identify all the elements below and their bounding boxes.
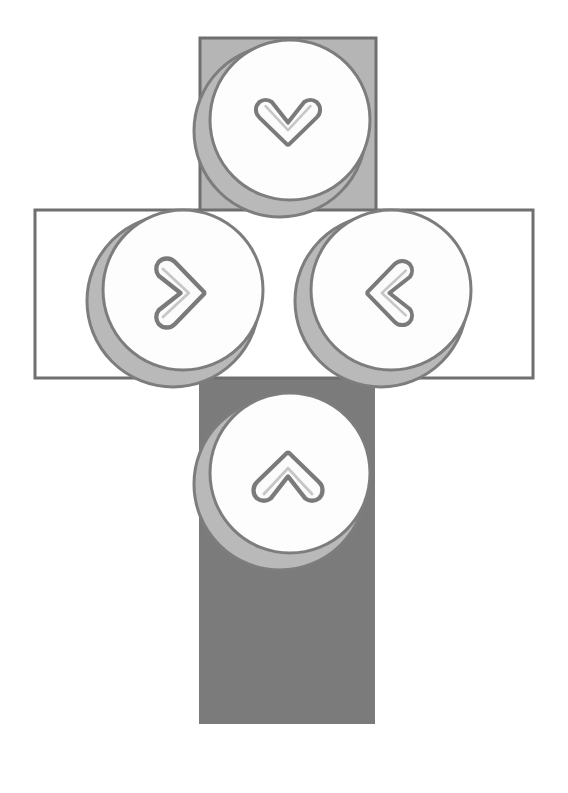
illustration-canvas xyxy=(0,0,568,793)
directional-control-cluster xyxy=(0,0,568,793)
